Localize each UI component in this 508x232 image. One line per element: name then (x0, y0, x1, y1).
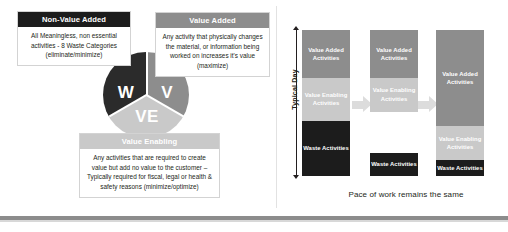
value-categories-diagram: W V VE Non-Value Added All Meaningless, … (0, 0, 276, 216)
slide-canvas: W V VE Non-Value Added All Meaningless, … (0, 0, 508, 232)
pie-divider-1 (146, 52, 148, 95)
pace-of-work-caption: Pace of work remains the same (306, 190, 506, 199)
pie-label-value-enabling: VE (131, 108, 163, 125)
callout-value-enabling: Value Enabling Any activities that are r… (79, 133, 220, 198)
segment-value-added: Value Added Activities (302, 30, 350, 78)
segment-value-added: Value Added Activities (436, 30, 484, 126)
pie-label-value-added: V (154, 84, 180, 101)
segment-value-enabling: Value Enabling Activities (436, 126, 484, 160)
segment-value-enabling: Value Enabling Activities (302, 78, 350, 120)
flow-arrow-right-icon-2 (418, 96, 438, 113)
callout-value-enabling-body: Any activities that are required to crea… (80, 149, 219, 198)
callout-non-value-added: Non-Value Added All Meaningless, non ess… (17, 11, 131, 66)
pie-label-waste: W (113, 84, 139, 101)
segment-waste: Waste Activities (436, 160, 484, 176)
stacked-column-1: Value Added Activities Value Enabling Ac… (302, 30, 350, 176)
callout-value-enabling-title: Value Enabling (80, 134, 219, 149)
segment-waste: Waste Activities (302, 121, 350, 176)
typical-day-axis-label: Typical Day (291, 60, 298, 120)
callout-value-added: Value Added Any activity that physically… (155, 12, 270, 77)
segment-value-added: Value Added Activities (370, 30, 418, 78)
callout-value-added-body: Any activity that physically changes the… (156, 28, 269, 77)
footer-rule-shadow (0, 220, 508, 222)
callout-non-value-added-title: Non-Value Added (18, 12, 130, 27)
callout-non-value-added-body: All Meaningless, non essential activitie… (18, 27, 130, 66)
callout-value-added-title: Value Added (156, 13, 269, 28)
stacked-column-3: Value Added Activities Value Enabling Ac… (436, 30, 484, 176)
segment-value-enabling: Value Enabling Activities (370, 78, 418, 112)
pace-of-work-chart: Typical Day Value Added Activities Value… (276, 0, 508, 216)
segment-waste: Waste Activities (370, 153, 418, 176)
stacked-column-2: Value Added Activities Value Enabling Ac… (370, 30, 418, 176)
flow-arrow-right-icon-1 (352, 96, 372, 113)
